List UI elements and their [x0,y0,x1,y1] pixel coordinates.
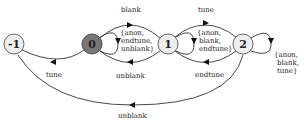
svg-text:1: 1 [164,38,172,51]
arrow-icon [127,59,133,65]
arrow-icon [129,102,135,108]
svg-text:2: 2 [239,38,247,51]
state-neg1: -1 [4,34,24,54]
arrow-icon [191,38,197,44]
edge-0-to-neg1: tune [22,50,84,79]
edge-label: tune [46,71,62,79]
state-2: 2 [233,34,253,54]
edge-label: endtune [195,71,224,79]
edge-1-to-0: unblank [100,51,160,80]
state-0: 0 [82,34,102,54]
edge-2-to-1: endtune [175,51,236,79]
edge-label: unblank [118,112,147,120]
state-diagram: blank unblank tune tune endtune unblank … [0,0,304,129]
arrow-icon [127,22,133,28]
edge-label: tune [198,6,214,14]
svg-text:0: 0 [88,38,96,51]
arrow-icon [50,59,56,65]
edge-2-to-neg1: unblank [18,55,243,120]
edge-label: blank [121,6,141,14]
svg-text:-1: -1 [8,38,20,51]
svg-text:{anon, blank, endt: {anon, blank, endtune} [197,29,233,53]
state-1: 1 [158,34,178,54]
arrow-icon [268,38,274,44]
svg-text:{anon, endtune, un: {anon, endtune, unblank} [120,29,155,53]
svg-text:{anon, blank, tune: {anon, blank, tune} [274,51,301,75]
arrow-icon [203,59,209,65]
self-loop-2: {anon, blank, tune} [251,33,301,75]
self-loop-1: {anon, blank, endtune} [176,29,233,54]
edge-label: unblank [116,72,145,80]
self-loop-0: {anon, endtune, unblank} [100,29,155,54]
